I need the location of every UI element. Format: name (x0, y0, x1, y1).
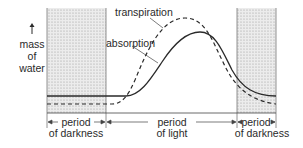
period-sublabel-3: of darkness (235, 127, 289, 139)
darkness-region-left (47, 8, 106, 113)
water-balance-diagram: mass of water transpiration absorption p… (0, 0, 303, 148)
period-sublabel-1: of darkness (49, 127, 103, 139)
period-sublabel-2: of light (157, 127, 188, 139)
transpiration-label: transpiration (115, 6, 173, 18)
absorption-label: absorption (106, 37, 155, 49)
darkness-region-right (237, 8, 276, 113)
y-axis-label-3: water (18, 62, 45, 74)
y-axis-label-2: of (28, 50, 37, 62)
y-axis-label-1: mass (19, 38, 44, 50)
